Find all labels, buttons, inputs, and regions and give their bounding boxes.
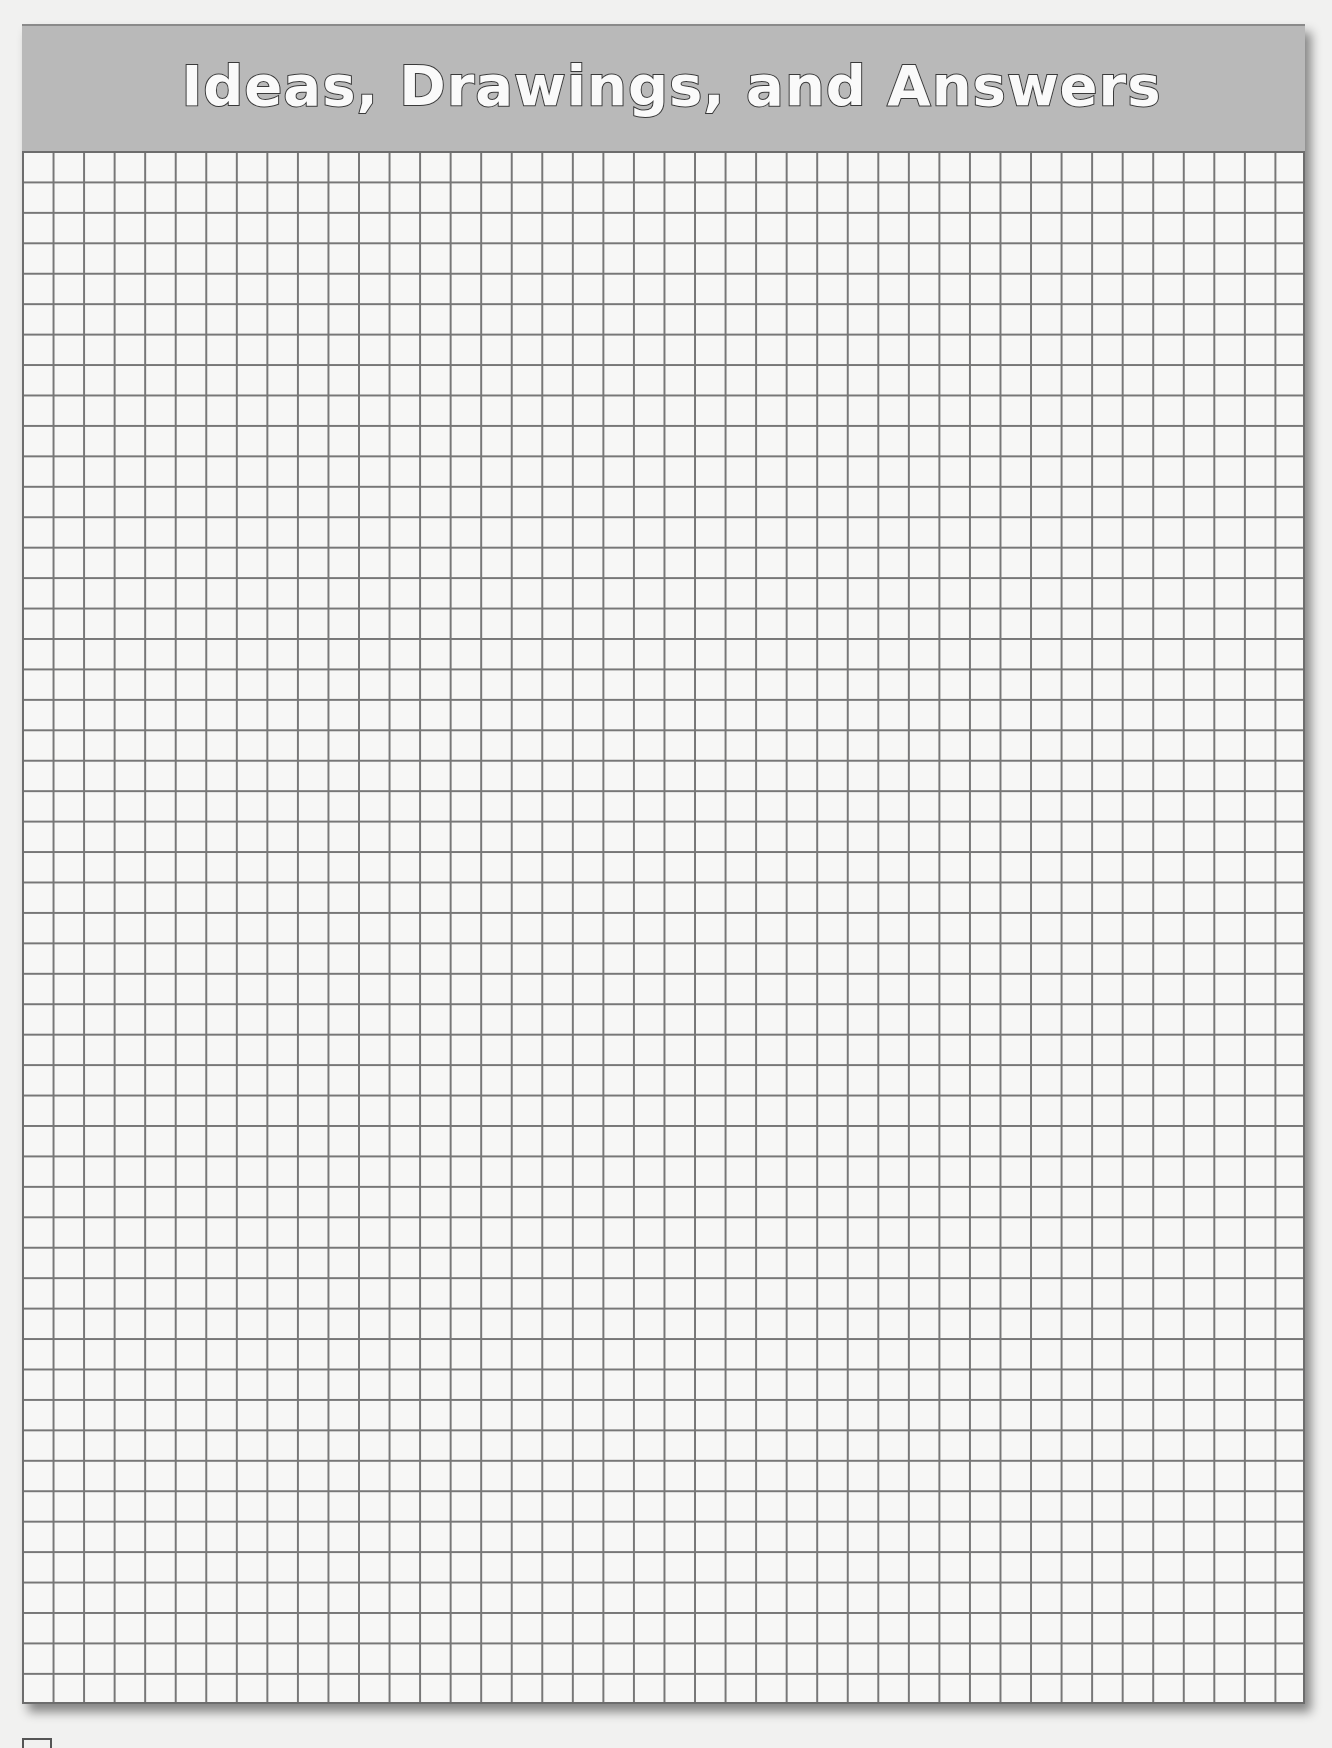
page-corner-mark xyxy=(22,1738,52,1748)
drawing-grid xyxy=(22,151,1305,1704)
page-title: Ideas, Drawings, and Answers xyxy=(181,53,1161,118)
graph-paper-sheet: Ideas, Drawings, and Answers xyxy=(22,24,1305,1704)
header-band: Ideas, Drawings, and Answers xyxy=(22,24,1305,151)
